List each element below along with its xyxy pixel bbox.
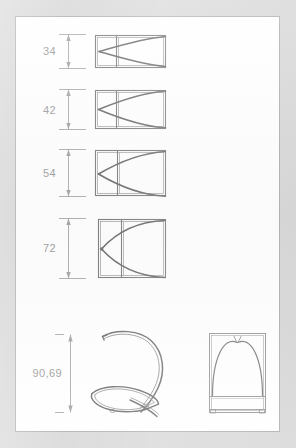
technical-drawing-svg: 34 42: [0, 0, 296, 448]
dim-72-label: 72: [43, 242, 56, 254]
dim-54-label: 54: [43, 167, 56, 179]
dim-42-label: 42: [43, 104, 56, 116]
dim-34-label: 34: [43, 45, 56, 57]
drawing-canvas: 34 42: [0, 0, 296, 448]
dim-9069-label: 90,69: [32, 367, 62, 379]
